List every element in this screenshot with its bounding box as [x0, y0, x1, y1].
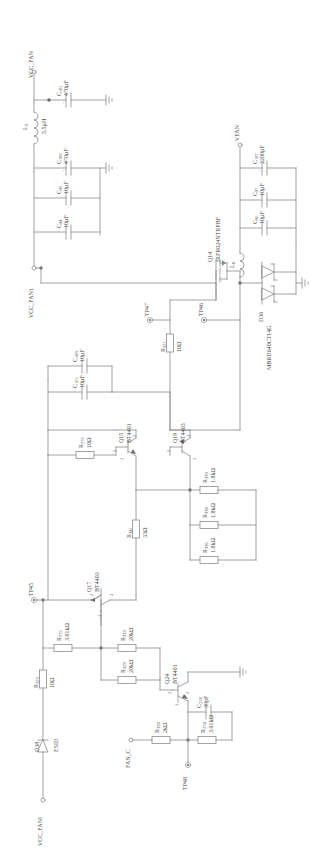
pin-label-q24-2: 2 — [186, 692, 190, 694]
pin-label-q15-3: 3 — [113, 450, 117, 452]
pin-label-q24-3: 3 — [168, 692, 172, 694]
diode-ref-d38: D38 — [34, 742, 40, 752]
net-terminal-vfan — [238, 143, 242, 147]
res-value-r339: 1.8kΩ — [210, 468, 216, 483]
res-value-r276: 10Ω — [86, 438, 92, 448]
cap-value-c94: 10µF — [63, 215, 69, 228]
res-value-r336: 1.8kΩ — [210, 538, 216, 553]
cap-value-c95: 10µF — [63, 181, 69, 194]
res-ref-r328: R328 — [154, 722, 161, 733]
cap-polarity-c181: + — [62, 101, 65, 106]
testpoint-label-tp46: TP46 — [198, 303, 204, 316]
testpoint-label-tp47: TP47 — [144, 303, 150, 316]
res-ref-r276: R276 — [78, 437, 85, 448]
pin-label-q19-2: 2 — [167, 450, 171, 452]
transistor-part-q19: BT4403 — [180, 423, 186, 443]
pin-label-q19-3: 3 — [187, 435, 191, 437]
junction-dot — [47, 98, 50, 101]
transistor-ref-q24: Q24 — [164, 674, 170, 684]
res-ref-r323: R323 — [33, 677, 40, 688]
net-label-esid: ESID — [53, 739, 59, 752]
cap-value-c218: 39pF — [203, 696, 209, 708]
res-value-r321: 10Ω — [176, 342, 182, 352]
cap-polarity-c187: + — [258, 169, 261, 174]
cap-polarity-c180: + — [62, 169, 65, 174]
testpoint-label-tp48: TP48 — [182, 777, 188, 790]
res-value-r333: 20kΩ — [128, 628, 134, 641]
cap-value-c180: 470µF — [63, 148, 69, 164]
transistor-part-q15: BT4401 — [126, 423, 132, 443]
testpoint-label-tp45: TP45 — [28, 583, 34, 596]
cap-value-c97: 10µF — [259, 183, 265, 196]
res-ref-r333: R333 — [120, 630, 127, 641]
diode-ref-d36: D36 — [258, 312, 264, 322]
res-ref-r321: R321 — [160, 341, 167, 352]
pin-label-q17-1: 1 — [98, 615, 102, 617]
net-label-vcc-fan: VCC_FAN — [28, 51, 34, 78]
schematic-sheet: VCC_FAN VCC_FAN1 VFAN VCC_FANI FAN_C ESI… — [0, 0, 311, 852]
transistor-ref-q17: Q17 — [86, 582, 92, 592]
res-value-r274: 3.01kΩ — [208, 715, 214, 733]
net-label-vcc-fan1: VCC_FAN1 — [28, 288, 34, 318]
res-ref-r338: R338 — [202, 507, 209, 518]
cap-value-c189: 10µF — [79, 349, 85, 362]
cap-value-c101: 10µF — [79, 375, 85, 388]
res-ref-r339: R339 — [202, 472, 209, 483]
pin-label-q24-1: 1 — [175, 704, 179, 706]
res-value-r329: 20kΩ — [128, 660, 134, 673]
transistor-part-q17: BT4403 — [94, 572, 100, 592]
ind-ref-l3: L3 — [22, 124, 29, 130]
cap-value-c181: 470µF — [63, 80, 69, 96]
res-ref-r329: R329 — [120, 662, 127, 673]
net-label-fan-c: FAN_C — [125, 749, 131, 768]
net-terminal-vcc-fan1 — [32, 266, 36, 270]
res-value-r323: 10Ω — [49, 678, 55, 688]
net-label-vfan: VFAN — [234, 125, 240, 141]
res-value-r275: 3.01kΩ — [64, 623, 70, 641]
pin-label-q19-1: 1 — [193, 458, 197, 460]
res-value-r328: 2kΩ — [162, 723, 168, 733]
ind-ref-l8: L8 — [229, 262, 236, 268]
transistor-part-q14: IRFR024NTRPBF — [215, 217, 221, 262]
transistor-ref-q15: Q15 — [118, 433, 124, 443]
res-ref-r275: R275 — [56, 630, 63, 641]
diode-part-d36: MBRD640CT14G — [266, 325, 272, 370]
res-ref-r336: R336 — [202, 542, 209, 553]
cap-value-c187: 2200µF — [259, 145, 265, 164]
pin-label-q15-1: 1 — [120, 458, 124, 460]
pin-label-q15-2: 2 — [133, 435, 137, 437]
cap-value-c96: 10µF — [259, 211, 265, 224]
net-label-vcc-fani: VCC_FANI — [37, 817, 43, 846]
res-ref-r341: R341 — [126, 527, 133, 538]
res-value-r338: 1.8kΩ — [210, 503, 216, 518]
res-value-r341: 33Ω — [142, 528, 148, 538]
net-terminal-vcc-fani — [41, 798, 45, 802]
transistor-part-q24: BT4401 — [172, 664, 178, 684]
pin-label-q17-2: 2 — [90, 594, 94, 596]
transistor-ref-q19: Q19 — [172, 433, 178, 443]
pin-label-q17-3: 3 — [110, 594, 114, 596]
net-terminal-fan-c — [129, 738, 133, 742]
res-ref-r274: R274 — [200, 722, 207, 733]
ind-value-l3: 5.5µH — [41, 119, 47, 134]
transistor-ref-q14: Q14 — [207, 252, 213, 262]
